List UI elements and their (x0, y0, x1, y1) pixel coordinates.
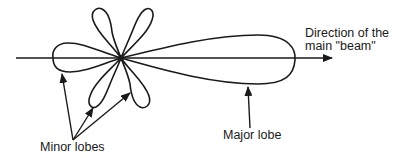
minor-lobe-arrow-1 (62, 74, 73, 140)
minor-lobe-upper-right (121, 9, 153, 58)
minor-lobe-arrow-2 (73, 108, 93, 140)
major-lobe-label: Major lobe (223, 129, 281, 142)
minor-lobe-upper-left (92, 8, 121, 58)
direction-label: Direction of the main "beam" (305, 27, 389, 53)
major-lobe-arrow (248, 87, 250, 128)
direction-label-line2: main "beam" (305, 40, 389, 53)
minor-lobe-arrow-3 (73, 93, 130, 140)
minor-lobes-label: Minor lobes (40, 141, 105, 154)
origin-point (118, 55, 124, 61)
minor-lobe-lower-left (89, 58, 121, 107)
radiation-pattern-diagram (0, 0, 406, 158)
major-lobe (121, 35, 295, 84)
